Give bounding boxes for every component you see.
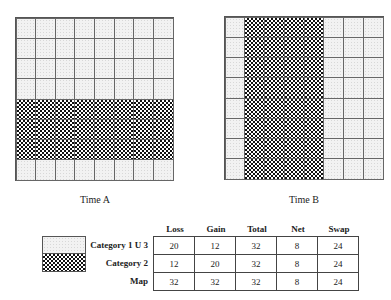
grid-cell-light xyxy=(225,138,246,159)
grid-cell-dark xyxy=(114,139,135,160)
time-a-grid xyxy=(15,17,174,181)
grid-cell-dark xyxy=(94,119,115,140)
time-b-caption: Time B xyxy=(264,194,344,205)
grid-cell-light xyxy=(363,77,384,98)
grid-cell-light xyxy=(225,98,246,119)
grid-cell-dark xyxy=(244,37,265,58)
cell: 8 xyxy=(277,237,318,255)
cell: 12 xyxy=(154,255,195,273)
grid-cell-light xyxy=(114,38,135,59)
grid-cell-dark xyxy=(264,37,285,58)
grid-cell-light xyxy=(114,58,135,79)
grid-cell-light xyxy=(323,118,344,139)
grid-cell-dark xyxy=(244,17,265,38)
grid-cell-light xyxy=(323,17,344,38)
grid-cell-light xyxy=(323,77,344,98)
grid-cell-dark xyxy=(264,138,285,159)
grid-cell-dark xyxy=(284,17,305,38)
grid-cell-dark xyxy=(133,139,154,160)
grid-cell-light xyxy=(343,77,364,98)
grid-cell-light xyxy=(225,118,246,139)
grid-cell-dark xyxy=(114,119,135,140)
grid-cell-dark xyxy=(153,119,174,140)
grid-cell-light xyxy=(114,159,135,180)
cell: 32 xyxy=(195,273,236,291)
table-row: 20 12 32 8 24 xyxy=(154,237,359,255)
grid-cell-light xyxy=(363,17,384,38)
grid-cell-light xyxy=(94,18,115,39)
grid-cell-light xyxy=(225,57,246,78)
grid-cell-dark xyxy=(244,138,265,159)
grid-cell-dark xyxy=(304,98,325,119)
grid-cell-light xyxy=(55,159,76,180)
grid-cell-light xyxy=(153,78,174,99)
grid-cell-dark xyxy=(264,118,285,139)
grid-cell-dark xyxy=(264,17,285,38)
grid-cell-light xyxy=(133,58,154,79)
grid-cell-light xyxy=(114,78,135,99)
grid-cell-light xyxy=(225,158,246,179)
grid-cell-dark xyxy=(74,139,95,160)
grid-cell-dark xyxy=(133,119,154,140)
grid-cell-dark xyxy=(304,158,325,179)
time-a-caption: Time A xyxy=(55,194,135,205)
grid-cell-dark xyxy=(244,57,265,78)
grid-cell-light xyxy=(35,18,56,39)
grid-cell-dark xyxy=(16,139,37,160)
cell: 8 xyxy=(277,255,318,273)
grid-cell-dark xyxy=(264,77,285,98)
grid-cell-dark xyxy=(264,98,285,119)
grid-cell-dark xyxy=(284,37,305,58)
grid-cell-dark xyxy=(244,158,265,179)
cell: 20 xyxy=(195,255,236,273)
cell: 32 xyxy=(154,273,195,291)
grid-cell-dark xyxy=(35,119,56,140)
header-swap: Swap xyxy=(319,224,359,234)
grid-cell-light xyxy=(16,78,37,99)
grid-cell-light xyxy=(153,38,174,59)
grid-cell-light xyxy=(323,158,344,179)
grid-cell-light xyxy=(94,58,115,79)
grid-cell-dark xyxy=(284,77,305,98)
grid-cell-light xyxy=(94,38,115,59)
row-label-category1: Category 1 U 3 xyxy=(80,240,148,250)
grid-cell-dark xyxy=(284,98,305,119)
grid-cell-dark xyxy=(55,139,76,160)
grid-cell-light xyxy=(323,98,344,119)
grid-cell-light xyxy=(363,138,384,159)
cell: 32 xyxy=(236,255,277,273)
grid-cell-light xyxy=(363,118,384,139)
grid-cell-dark xyxy=(94,139,115,160)
grid-cell-dark xyxy=(304,17,325,38)
grid-cell-light xyxy=(114,18,135,39)
grid-cell-dark xyxy=(264,57,285,78)
grid-cell-light xyxy=(55,78,76,99)
grid-cell-dark xyxy=(304,138,325,159)
grid-cell-dark xyxy=(304,118,325,139)
header-gain: Gain xyxy=(196,224,236,234)
grid-cell-dark xyxy=(35,99,56,120)
grid-cell-light xyxy=(343,158,364,179)
grid-cell-light xyxy=(16,58,37,79)
grid-cell-light xyxy=(343,138,364,159)
grid-cell-light xyxy=(55,58,76,79)
grid-cell-light xyxy=(94,78,115,99)
grid-cell-light xyxy=(133,159,154,180)
grid-cell-light xyxy=(363,37,384,58)
grid-cell-light xyxy=(35,78,56,99)
grid-cell-light xyxy=(74,58,95,79)
cell: 32 xyxy=(236,237,277,255)
cell: 32 xyxy=(236,273,277,291)
grid-cell-light xyxy=(74,18,95,39)
grid-cell-light xyxy=(363,98,384,119)
cell: 8 xyxy=(277,273,318,291)
grid-cell-light xyxy=(16,18,37,39)
grid-cell-light xyxy=(225,17,246,38)
grid-cell-light xyxy=(55,18,76,39)
time-b-grid xyxy=(224,16,384,180)
grid-cell-light xyxy=(133,78,154,99)
row-label-category2: Category 2 xyxy=(80,258,148,268)
grid-cell-dark xyxy=(16,99,37,120)
grid-cell-light xyxy=(74,159,95,180)
grid-cell-dark xyxy=(35,139,56,160)
